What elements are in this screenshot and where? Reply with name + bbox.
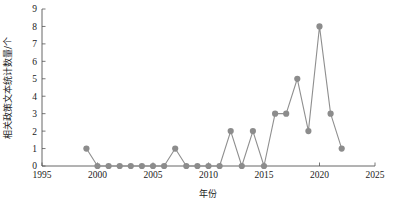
y-axis-tick-label: 8 bbox=[32, 22, 37, 32]
x-axis-tick-label: 2010 bbox=[199, 170, 218, 180]
y-axis-tick-label: 7 bbox=[32, 39, 37, 49]
x-axis-tick-label: 2020 bbox=[310, 170, 329, 180]
data-point-marker bbox=[205, 163, 211, 169]
data-point-marker bbox=[328, 111, 334, 117]
data-point-marker bbox=[183, 163, 189, 169]
data-point-marker bbox=[272, 111, 278, 117]
y-axis-tick-label: 5 bbox=[32, 74, 37, 84]
data-point-marker bbox=[228, 128, 234, 134]
data-point-marker bbox=[194, 163, 200, 169]
data-point-marker bbox=[261, 163, 267, 169]
y-axis-tick-label: 4 bbox=[32, 92, 37, 102]
data-point-marker bbox=[283, 111, 289, 117]
data-point-marker bbox=[83, 145, 89, 151]
data-point-marker bbox=[94, 163, 100, 169]
data-point-marker bbox=[106, 163, 112, 169]
x-axis-tick-label: 2000 bbox=[88, 170, 107, 180]
y-axis-tick-label: 6 bbox=[32, 57, 37, 67]
data-point-marker bbox=[217, 163, 223, 169]
data-point-marker bbox=[161, 163, 167, 169]
data-point-marker bbox=[239, 163, 245, 169]
y-axis-tick-label: 1 bbox=[32, 144, 37, 154]
data-point-marker bbox=[117, 163, 123, 169]
data-point-marker bbox=[294, 76, 300, 82]
chart-canvas: 0123456789 1995200020052010201520202025 … bbox=[0, 0, 400, 202]
y-axis-tick-mark-group bbox=[42, 9, 46, 166]
x-axis-title: 年份 bbox=[199, 188, 217, 199]
data-point-marker bbox=[305, 128, 311, 134]
y-axis-tick-label-group: 0123456789 bbox=[32, 4, 37, 171]
data-point-marker-group bbox=[83, 23, 345, 169]
x-axis-tick-label: 1995 bbox=[33, 170, 52, 180]
y-axis-tick-label: 9 bbox=[32, 4, 37, 14]
x-axis-tick-label: 2005 bbox=[144, 170, 163, 180]
y-axis-tick-label: 2 bbox=[32, 127, 37, 137]
data-point-marker bbox=[139, 163, 145, 169]
y-axis-tick-label: 3 bbox=[32, 109, 37, 119]
data-point-marker bbox=[250, 128, 256, 134]
x-axis-tick-label-group: 1995200020052010201520202025 bbox=[33, 170, 385, 180]
data-point-marker bbox=[339, 145, 345, 151]
data-series-line bbox=[86, 26, 341, 166]
line-chart: 0123456789 1995200020052010201520202025 … bbox=[0, 0, 400, 202]
y-axis-title: 相关政策文本统计数量/个 bbox=[2, 37, 13, 139]
x-axis-tick-label: 2015 bbox=[255, 170, 274, 180]
data-point-marker bbox=[128, 163, 134, 169]
data-point-marker bbox=[150, 163, 156, 169]
x-axis-tick-label: 2025 bbox=[366, 170, 385, 180]
data-point-marker bbox=[172, 145, 178, 151]
data-point-marker bbox=[316, 23, 322, 29]
